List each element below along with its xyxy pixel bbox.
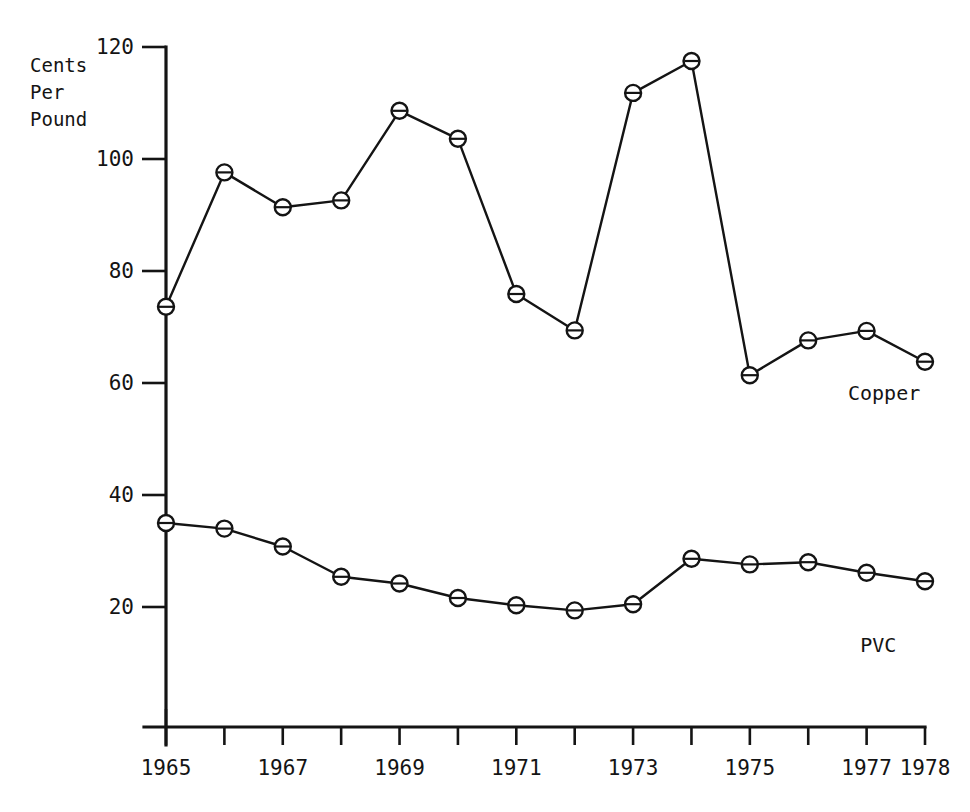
series-labels-group: CopperPVC bbox=[848, 381, 920, 657]
y-tick-label: 120 bbox=[96, 35, 134, 59]
data-point-marker bbox=[567, 602, 583, 618]
x-tick-label: 1969 bbox=[374, 756, 425, 780]
data-point-marker bbox=[450, 590, 466, 606]
data-point-marker bbox=[158, 515, 174, 531]
tick-marks-group bbox=[142, 47, 925, 745]
series-label-copper: Copper bbox=[848, 381, 920, 405]
data-point-marker bbox=[917, 354, 933, 370]
y-tick-label: 20 bbox=[109, 595, 134, 619]
data-point-marker bbox=[216, 521, 232, 537]
series-line-copper bbox=[166, 61, 925, 375]
data-point-marker bbox=[800, 554, 816, 570]
data-point-marker bbox=[684, 551, 700, 567]
y-tick-labels-group: 20406080100120 bbox=[96, 35, 134, 619]
data-point-marker bbox=[567, 322, 583, 338]
data-point-marker bbox=[625, 85, 641, 101]
data-point-marker bbox=[392, 103, 408, 119]
x-tick-label: 1967 bbox=[257, 756, 308, 780]
data-point-marker bbox=[333, 192, 349, 208]
data-series-group bbox=[158, 53, 933, 618]
data-point-marker bbox=[917, 573, 933, 589]
data-point-marker bbox=[216, 164, 232, 180]
data-point-marker bbox=[275, 199, 291, 215]
x-tick-label: 1975 bbox=[725, 756, 776, 780]
x-tick-label: 1971 bbox=[491, 756, 542, 780]
data-point-marker bbox=[158, 299, 174, 315]
data-point-marker bbox=[392, 576, 408, 592]
line-chart-plot: 20406080100120 1965196719691971197319751… bbox=[0, 0, 970, 812]
data-point-marker bbox=[508, 286, 524, 302]
data-point-marker bbox=[625, 596, 641, 612]
x-tick-label: 1973 bbox=[608, 756, 659, 780]
data-point-marker bbox=[859, 323, 875, 339]
data-point-marker bbox=[333, 569, 349, 585]
y-tick-label: 60 bbox=[109, 371, 134, 395]
x-tick-label: 1965 bbox=[141, 756, 192, 780]
data-point-marker bbox=[275, 539, 291, 555]
data-point-marker bbox=[859, 565, 875, 581]
y-tick-label: 40 bbox=[109, 483, 134, 507]
data-point-marker bbox=[450, 131, 466, 147]
data-point-marker bbox=[742, 556, 758, 572]
data-point-marker bbox=[742, 367, 758, 383]
data-point-marker bbox=[508, 597, 524, 613]
data-point-marker bbox=[800, 332, 816, 348]
x-tick-labels-group: 19651967196919711973197519771978 bbox=[141, 756, 951, 780]
chart-container: Cents Per Pound 20406080100120 196519671… bbox=[0, 0, 970, 812]
y-tick-label: 80 bbox=[109, 259, 134, 283]
axes-group bbox=[144, 47, 925, 745]
series-label-pvc: PVC bbox=[860, 633, 896, 657]
data-point-marker bbox=[684, 53, 700, 69]
x-tick-label: 1977 bbox=[841, 756, 892, 780]
y-tick-label: 100 bbox=[96, 147, 134, 171]
x-tick-label: 1978 bbox=[900, 756, 951, 780]
